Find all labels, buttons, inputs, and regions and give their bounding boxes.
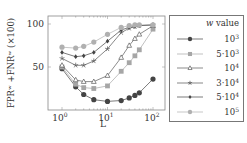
triangle-marker-icon: [175, 61, 205, 75]
legend-item: 105: [170, 105, 243, 119]
legend-item: 103: [170, 32, 243, 46]
circle-marker-icon: [175, 32, 205, 46]
legend-label: 5·104: [216, 91, 239, 102]
legend-item: 5·104: [170, 90, 243, 104]
axis-ticks: [48, 16, 165, 110]
plot-frame: [48, 16, 165, 110]
legend-label: 103: [224, 33, 239, 44]
legend-label: 3·104: [216, 77, 239, 88]
legend-item: 3·104: [170, 76, 243, 90]
legend-label: 105: [224, 106, 239, 117]
legend-label: 5·103: [216, 48, 239, 59]
y-tick-labels: 100 50: [27, 19, 44, 72]
y-axis-label-text: FPRʷ +FNRʷ (×100): [6, 18, 16, 108]
x-tick-100: 102: [144, 111, 159, 123]
square-marker-icon: [175, 47, 205, 61]
y-tick-100: 100: [27, 19, 44, 29]
circle-marker-icon: [175, 105, 205, 119]
x-axis-label: L: [100, 119, 106, 129]
star-marker-icon: [175, 76, 205, 90]
data-series: [59, 22, 155, 104]
legend-item: 104: [170, 61, 243, 75]
legend-item: 5·103: [170, 47, 243, 61]
series-3: [60, 22, 156, 67]
y-axis-label: FPRʷ +FNRʷ (×100): [2, 16, 20, 110]
legend-title-rest: value: [213, 18, 239, 28]
diamond-marker-icon: [175, 90, 205, 104]
legend-title: w value: [206, 18, 239, 28]
y-tick-50: 50: [33, 62, 45, 72]
x-tick-labels: 100 101 102: [52, 111, 159, 123]
legend-label: 104: [224, 62, 239, 73]
legend: w value 1035·1031043·1045·104105: [169, 15, 244, 122]
x-tick-1: 100: [52, 111, 67, 123]
